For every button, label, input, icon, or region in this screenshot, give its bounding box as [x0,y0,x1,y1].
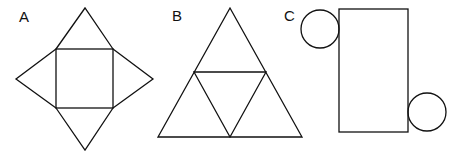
figure-a-pyramid-net [16,8,153,150]
nets-diagram: A B C [0,0,458,158]
figure-c-cylinder-net [301,9,446,132]
figure-b-tetrahedron-net [158,8,302,137]
